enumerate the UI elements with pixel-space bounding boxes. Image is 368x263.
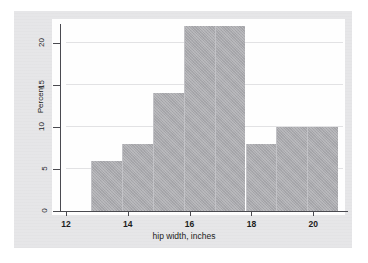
x-tick-mark — [128, 211, 129, 216]
y-tick-mark — [53, 43, 60, 44]
y-axis-line — [60, 24, 61, 212]
x-tick-label: 18 — [236, 219, 266, 229]
y-axis-title: Percent — [36, 86, 45, 114]
y-tick-mark — [53, 169, 60, 170]
histogram-bar — [153, 93, 184, 211]
x-tick-label: 12 — [51, 219, 81, 229]
y-tick-label: 20 — [0, 38, 46, 47]
x-tick-mark — [190, 211, 191, 216]
histogram-bar — [246, 144, 277, 211]
histogram-bar — [215, 26, 246, 211]
x-tick-mark — [66, 211, 67, 216]
y-tick-mark — [53, 211, 60, 212]
y-tick-label-text: 5 — [39, 166, 48, 170]
y-tick-mark — [53, 85, 60, 86]
y-tick-label: 5 — [0, 164, 46, 173]
histogram-bar — [122, 144, 153, 211]
histogram-bar — [184, 26, 215, 211]
histogram-bar — [307, 127, 338, 211]
y-tick-label-text: 20 — [37, 38, 46, 47]
y-tick-mark — [53, 127, 60, 128]
x-tick-mark — [313, 211, 314, 216]
histogram-bar — [276, 127, 307, 211]
x-axis-line — [58, 211, 348, 212]
x-axis-title: hip width, inches — [0, 231, 368, 241]
histogram-bar — [91, 161, 122, 212]
y-tick-label: 10 — [0, 122, 46, 131]
x-tick-mark — [251, 211, 252, 216]
x-tick-label: 14 — [113, 219, 143, 229]
x-tick-label: 20 — [298, 219, 328, 229]
y-tick-label-text: 0 — [39, 208, 48, 212]
x-tick-label: 16 — [175, 219, 205, 229]
y-tick-label: 0 — [0, 206, 46, 215]
plot-area — [66, 26, 343, 211]
y-tick-label-text: 10 — [37, 122, 46, 131]
